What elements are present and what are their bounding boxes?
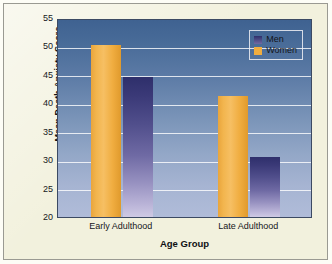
y-axis-tick-group: Mean Death Anxiety Score 202530354045505… xyxy=(28,19,53,218)
legend-swatch-men xyxy=(254,36,262,44)
bar-men-early-adulthood xyxy=(123,77,153,217)
legend-label-men: Men xyxy=(266,35,284,44)
y-axis-tick-label: 20 xyxy=(43,213,53,222)
chart-figure: Mean Death Anxiety Score 202530354045505… xyxy=(0,0,332,264)
x-axis-tick-label: Late Adulthood xyxy=(218,221,278,231)
x-axis-title: Age Group xyxy=(57,238,312,249)
legend-label-women: Women xyxy=(266,46,297,55)
y-axis-tick-label: 30 xyxy=(43,156,53,165)
y-axis-tick-label: 25 xyxy=(43,185,53,194)
legend: Men Women xyxy=(249,30,303,60)
legend-item-women: Women xyxy=(254,45,297,56)
x-axis-ticks: Early AdulthoodLate Adulthood xyxy=(57,221,312,235)
x-axis-tick-label: Early Adulthood xyxy=(89,221,152,231)
bar-women-late-adulthood xyxy=(218,96,248,217)
plot-area: Men Women xyxy=(57,19,312,218)
y-axis-tick-label: 40 xyxy=(43,99,53,108)
legend-swatch-women xyxy=(254,47,262,55)
y-axis-tick-label: 55 xyxy=(43,14,53,23)
legend-item-men: Men xyxy=(254,34,297,45)
y-axis-tick-label: 50 xyxy=(43,42,53,51)
y-axis-tick-label: 35 xyxy=(43,128,53,137)
bar-men-late-adulthood xyxy=(250,157,280,217)
y-axis-tick-label: 45 xyxy=(43,71,53,80)
bar-women-early-adulthood xyxy=(91,45,121,217)
